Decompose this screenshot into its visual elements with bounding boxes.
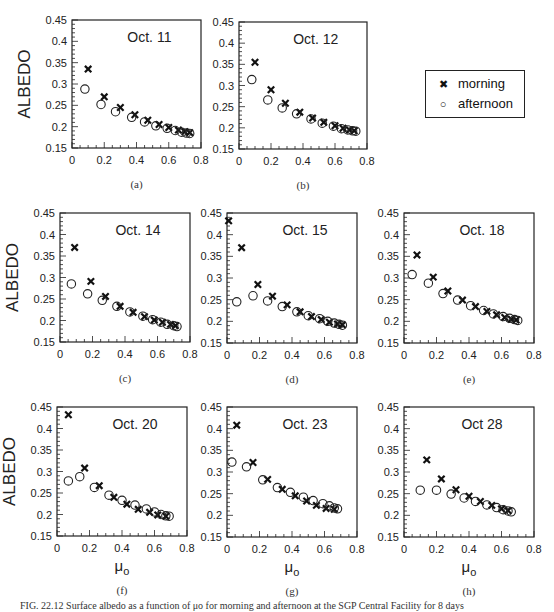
afternoon-point bbox=[299, 493, 307, 501]
afternoon-point bbox=[64, 477, 72, 485]
morning-point bbox=[81, 465, 87, 471]
y-tick-label: 0.2 bbox=[52, 121, 67, 133]
afternoon-point bbox=[447, 490, 455, 498]
x-tick-label: 0.8 bbox=[526, 349, 541, 361]
afternoon-point bbox=[83, 290, 91, 298]
panel-title: Oct. 18 bbox=[459, 222, 504, 238]
y-tick-label: 0.4 bbox=[384, 423, 399, 435]
panel-a: 0.150.20.250.30.350.40.4500.20.40.60.8Oc… bbox=[15, 14, 209, 191]
panel-title: Oct. 12 bbox=[293, 31, 338, 47]
panel-letter: (b) bbox=[297, 179, 310, 192]
x-tick-label: 0.4 bbox=[461, 349, 476, 361]
afternoon-point bbox=[98, 296, 106, 304]
legend-label-morning: morning bbox=[458, 76, 505, 91]
panel-letter: (d) bbox=[286, 373, 299, 386]
morning-point bbox=[424, 457, 430, 463]
x-tick-label: 0.6 bbox=[327, 155, 342, 167]
y-tick-label: 0.35 bbox=[378, 444, 399, 456]
afternoon-point bbox=[228, 458, 236, 466]
afternoon-point bbox=[453, 296, 461, 304]
x-tick-label: 0.6 bbox=[150, 348, 165, 360]
y-tick-label: 0.3 bbox=[219, 80, 234, 92]
y-tick-label: 0.3 bbox=[52, 78, 67, 90]
x-tick-label: 0 bbox=[54, 542, 60, 554]
afternoon-point bbox=[118, 496, 126, 504]
x-tick-label: 0.8 bbox=[349, 543, 364, 555]
y-tick-label: 0.3 bbox=[384, 466, 399, 478]
y-tick-label: 0.25 bbox=[201, 488, 222, 500]
y-tick-label: 0.3 bbox=[207, 272, 222, 284]
morning-point bbox=[96, 482, 102, 488]
panel-title: Oct 28 bbox=[461, 416, 502, 432]
panel-e: 0.150.20.250.30.350.40.4500.20.40.60.8Oc… bbox=[378, 207, 542, 386]
y-tick-label: 0.15 bbox=[378, 337, 399, 349]
y-tick-label: 0.4 bbox=[40, 229, 55, 241]
y-tick-label: 0.45 bbox=[34, 207, 55, 219]
x-tick-label: 0.2 bbox=[252, 349, 267, 361]
y-tick-label: 0.35 bbox=[201, 444, 222, 456]
y-tick-label: 0.45 bbox=[378, 401, 399, 413]
afternoon-point bbox=[131, 501, 139, 509]
panel-title: Oct. 20 bbox=[112, 416, 157, 432]
y-tick-label: 0.45 bbox=[213, 16, 234, 28]
x-tick-label: 0.2 bbox=[85, 348, 100, 360]
panel-f: 0.150.20.250.30.350.40.4500.20.40.60.8Oc… bbox=[0, 401, 195, 597]
y-axis-label: ALBEDO bbox=[15, 50, 34, 119]
legend-item-morning: ✖morning bbox=[436, 76, 505, 91]
panel-letter: (g) bbox=[286, 585, 299, 598]
y-tick-label: 0.3 bbox=[40, 272, 55, 284]
y-tick-label: 0.2 bbox=[207, 315, 222, 327]
y-tick-label: 0.45 bbox=[201, 207, 222, 219]
afternoon-point bbox=[424, 279, 432, 287]
y-tick-label: 0.2 bbox=[384, 315, 399, 327]
afternoon-point bbox=[233, 298, 241, 306]
panel-d: 0.150.20.250.30.350.40.4500.20.40.60.8Oc… bbox=[201, 207, 365, 386]
morning-point bbox=[268, 87, 274, 93]
x-tick-label: 0.2 bbox=[429, 349, 444, 361]
y-axis-label: ALBEDO bbox=[3, 243, 22, 312]
morning-point bbox=[71, 244, 77, 250]
x-tick-label: 0.8 bbox=[179, 542, 194, 554]
y-tick-label: 0.35 bbox=[378, 250, 399, 262]
y-tick-label: 0.2 bbox=[219, 122, 234, 134]
y-tick-label: 0.3 bbox=[207, 466, 222, 478]
afternoon-point bbox=[264, 96, 272, 104]
x-tick-label: 0.2 bbox=[97, 154, 112, 166]
y-tick-label: 0.45 bbox=[378, 207, 399, 219]
x-tick-label: 0.8 bbox=[182, 348, 197, 360]
y-tick-label: 0.45 bbox=[31, 401, 52, 413]
x-axis-label: μo bbox=[115, 557, 130, 577]
x-tick-label: 0 bbox=[401, 349, 407, 361]
y-tick-label: 0.35 bbox=[31, 444, 52, 456]
y-tick-label: 0.15 bbox=[201, 337, 222, 349]
afternoon-point bbox=[67, 280, 75, 288]
legend-item-afternoon: ○afternoon bbox=[436, 96, 513, 111]
y-tick-label: 0.2 bbox=[37, 509, 52, 521]
x-tick-label: 0.2 bbox=[252, 543, 267, 555]
x-tick-label: 0.4 bbox=[117, 348, 132, 360]
morning-point bbox=[234, 422, 240, 428]
panel-b: 0.150.20.250.30.350.40.4500.20.40.60.8Oc… bbox=[213, 16, 375, 192]
x-tick-label: 0.6 bbox=[494, 543, 509, 555]
x-tick-label: 0.6 bbox=[161, 154, 176, 166]
x-tick-label: 0.6 bbox=[317, 349, 332, 361]
panel-g: 0.150.20.250.30.350.40.4500.20.40.60.8Oc… bbox=[201, 401, 365, 598]
panel-letter: (a) bbox=[130, 178, 143, 191]
morning-point bbox=[88, 278, 94, 284]
y-tick-label: 0.25 bbox=[378, 488, 399, 500]
morning-point bbox=[117, 104, 123, 110]
x-tick-label: 0 bbox=[401, 543, 407, 555]
x-tick-label: 0.8 bbox=[359, 155, 374, 167]
y-tick-label: 0.25 bbox=[213, 101, 234, 113]
y-tick-label: 0.25 bbox=[34, 293, 55, 305]
x-tick-label: 0.6 bbox=[147, 542, 162, 554]
y-tick-label: 0.15 bbox=[31, 530, 52, 542]
x-tick-label: 0.4 bbox=[114, 542, 129, 554]
x-axis-label: μo bbox=[462, 558, 477, 578]
morning-point bbox=[279, 486, 285, 492]
y-tick-label: 0.35 bbox=[34, 250, 55, 262]
x-axis-label: μo bbox=[285, 558, 300, 578]
afternoon-point bbox=[97, 100, 105, 108]
x-tick-label: 0.4 bbox=[284, 349, 299, 361]
y-tick-label: 0.2 bbox=[207, 509, 222, 521]
